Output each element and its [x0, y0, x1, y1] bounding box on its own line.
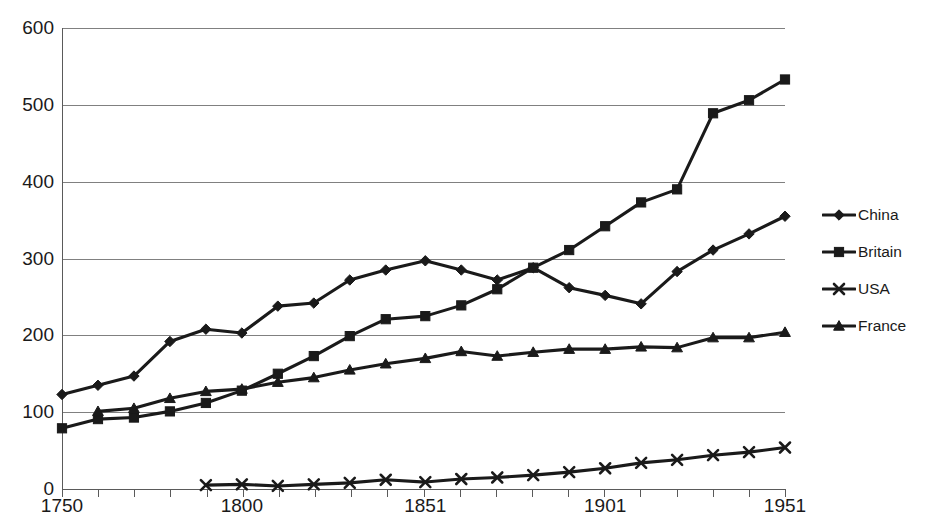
- data-point-marker: [456, 265, 466, 275]
- triangle-marker-icon: [822, 318, 856, 334]
- data-point-marker: [201, 324, 211, 334]
- data-point-marker: [672, 185, 681, 194]
- data-point-marker: [744, 96, 753, 105]
- x-tick-label-1951: 1951: [764, 496, 806, 515]
- data-point-marker: [637, 198, 646, 207]
- data-point-marker: [601, 222, 610, 231]
- y-tick-label-400: 400: [0, 172, 54, 191]
- y-tick-label-500: 500: [0, 95, 54, 114]
- data-point-marker: [57, 424, 66, 433]
- data-point-marker: [529, 263, 538, 272]
- data-point-marker: [381, 315, 390, 324]
- series-britain: [57, 75, 789, 433]
- data-point-marker: [780, 75, 789, 84]
- data-point-marker: [708, 109, 717, 118]
- x-tick-label-1901: 1901: [584, 496, 626, 515]
- x-tick-label-1851: 1851: [404, 496, 446, 515]
- legend-label: USA: [858, 281, 890, 297]
- data-point-marker: [165, 407, 174, 416]
- data-point-marker: [57, 389, 67, 399]
- data-point-marker: [834, 209, 844, 219]
- plot-svg: [62, 28, 785, 489]
- x-tick-label-1800: 1800: [221, 496, 263, 515]
- legend-label: China: [858, 207, 899, 223]
- y-tick-label-300: 300: [0, 249, 54, 268]
- x-tick-label-1750: 1750: [41, 496, 83, 515]
- data-point-marker: [93, 380, 103, 390]
- data-point-marker: [492, 275, 502, 285]
- legend-label: France: [858, 318, 906, 334]
- y-axis-tick-labels: 6005004003002001000: [0, 28, 54, 489]
- data-point-marker: [129, 413, 138, 422]
- chart-legend: ChinaBritainUSAFrance: [822, 196, 935, 344]
- data-point-marker: [421, 312, 430, 321]
- y-tick-label-200: 200: [0, 325, 54, 344]
- data-point-marker: [381, 265, 391, 275]
- x-axis-tick-labels: 17501800185119011951: [62, 496, 785, 526]
- x-marker-icon: [822, 281, 856, 297]
- series-china: [57, 211, 790, 400]
- data-point-marker: [780, 211, 790, 221]
- data-point-marker: [744, 229, 754, 239]
- diamond-marker-icon: [822, 207, 856, 223]
- data-point-marker: [600, 290, 610, 300]
- data-point-marker: [565, 245, 574, 254]
- data-point-marker: [309, 351, 318, 360]
- series-line: [62, 79, 785, 428]
- legend-item-britain[interactable]: Britain: [822, 233, 935, 270]
- square-marker-icon: [822, 244, 856, 260]
- data-point-marker: [457, 301, 466, 310]
- y-tick-label-100: 100: [0, 402, 54, 421]
- y-tick-label-600: 600: [0, 18, 54, 37]
- legend-label: Britain: [858, 244, 902, 260]
- legend-item-france[interactable]: France: [822, 307, 935, 344]
- legend-item-china[interactable]: China: [822, 196, 935, 233]
- plot-area: [62, 28, 785, 489]
- series-usa: [201, 443, 790, 491]
- series-france: [93, 327, 791, 416]
- data-point-marker: [201, 398, 210, 407]
- line-chart: 6005004003002001000 17501800185119011951…: [0, 0, 935, 531]
- series-line: [62, 216, 785, 394]
- data-point-marker: [420, 256, 430, 266]
- data-point-marker: [493, 285, 502, 294]
- data-point-marker: [834, 247, 843, 256]
- data-point-marker: [345, 332, 354, 341]
- legend-item-usa[interactable]: USA: [822, 270, 935, 307]
